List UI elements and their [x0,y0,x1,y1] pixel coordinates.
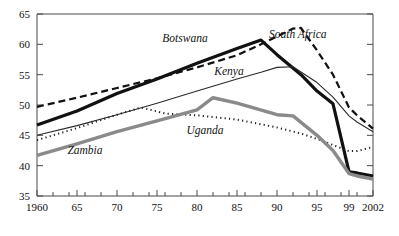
x-tick-label-70: 70 [112,201,124,213]
x-tick-label-2002: 2002 [362,201,384,213]
y-tick-label-55: 55 [19,69,31,81]
x-tick-label-80: 80 [192,201,204,213]
series-label-kenya: Kenya [213,65,244,78]
x-tick-label-90: 90 [272,201,284,213]
x-tick-label-95: 95 [312,201,324,213]
x-tick-label-85: 85 [232,201,244,213]
y-tick-label-65: 65 [19,8,31,20]
y-tick-label-60: 60 [19,38,31,50]
series-label-botswana: Botswana [162,32,208,44]
series-label-south-africa: South Africa [269,28,327,41]
x-tick-label-1960: 1960 [26,201,49,213]
series-line-botswana [37,40,373,176]
y-tick-label-45: 45 [19,129,31,141]
y-tick-label-40: 40 [19,160,31,172]
x-tick-label-99: 99 [344,201,356,213]
chart-canvas: 35404550556065 196065707580859095992002 … [0,0,399,236]
series-label-zambia: Zambia [67,144,102,156]
x-axis-tick-labels: 196065707580859095992002 [26,201,384,213]
y-axis-tick-labels: 35404550556065 [19,8,31,202]
x-tick-label-65: 65 [72,201,84,213]
series-line-zambia [37,98,373,179]
y-tick-label-50: 50 [19,99,31,111]
x-tick-label-75: 75 [152,201,164,213]
x-axis-ticks [37,190,373,196]
series-lines [37,28,373,179]
series-label-uganda: Uganda [186,124,223,137]
life-expectancy-line-chart: 35404550556065 196065707580859095992002 … [0,0,399,236]
